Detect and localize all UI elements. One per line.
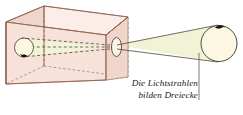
caption-line-1: Die Lichtstrahlen	[118, 78, 198, 90]
caption-line-2: bilden Dreiecke	[118, 90, 198, 102]
pinhole	[112, 38, 122, 57]
object-sphere	[201, 25, 237, 61]
pinhole-camera-figure: Die Lichtstrahlen bilden Dreiecke	[0, 0, 243, 115]
caption-text: Die Lichtstrahlen bilden Dreiecke	[118, 78, 198, 101]
projected-image	[15, 38, 34, 57]
